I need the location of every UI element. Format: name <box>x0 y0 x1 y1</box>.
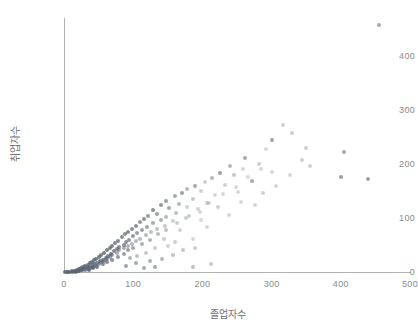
data-point <box>185 187 189 191</box>
data-point <box>290 131 294 135</box>
data-point <box>164 215 168 219</box>
data-point <box>162 237 166 241</box>
data-point <box>115 251 119 255</box>
data-point <box>308 164 312 168</box>
data-point <box>148 238 152 242</box>
data-point <box>270 170 274 174</box>
data-point <box>203 180 207 184</box>
data-point <box>216 205 220 209</box>
data-point <box>207 201 211 205</box>
data-point <box>131 234 135 238</box>
data-point <box>191 265 195 269</box>
data-point <box>209 262 213 266</box>
data-point <box>175 221 179 225</box>
data-point <box>131 246 135 250</box>
data-point <box>91 266 95 270</box>
data-point <box>164 228 168 232</box>
data-point <box>134 261 138 265</box>
data-point <box>193 184 197 188</box>
data-point <box>116 255 120 259</box>
data-point <box>146 214 150 218</box>
data-point <box>239 200 243 204</box>
data-point <box>366 177 370 181</box>
data-point <box>166 244 170 248</box>
data-point <box>377 23 381 27</box>
data-point <box>270 138 274 142</box>
data-point <box>288 173 292 177</box>
data-point <box>164 199 168 203</box>
data-point <box>178 228 182 232</box>
data-point <box>191 197 195 201</box>
data-point <box>151 208 155 212</box>
data-point <box>342 150 346 154</box>
data-point <box>300 158 304 162</box>
data-point <box>134 224 138 228</box>
data-point <box>122 246 126 250</box>
data-point <box>199 189 203 193</box>
data-point <box>159 203 163 207</box>
data-point <box>142 266 146 270</box>
data-point <box>213 193 217 197</box>
data-point <box>120 235 124 239</box>
data-point <box>259 167 263 171</box>
data-point <box>180 191 184 195</box>
data-point <box>227 213 231 217</box>
data-point <box>228 164 232 168</box>
data-point <box>155 227 159 231</box>
data-point <box>95 265 99 269</box>
data-point <box>243 156 247 160</box>
data-point <box>138 237 142 241</box>
data-point <box>187 214 191 218</box>
data-point <box>144 251 148 255</box>
data-point <box>135 254 139 258</box>
data-point <box>199 218 203 222</box>
data-point <box>174 211 178 215</box>
data-point <box>171 253 175 257</box>
data-point <box>135 231 139 235</box>
data-point <box>218 171 222 175</box>
data-point <box>156 232 160 236</box>
data-point <box>210 176 214 180</box>
data-point <box>122 252 126 256</box>
data-point <box>250 179 254 183</box>
data-point <box>274 184 278 188</box>
data-point <box>257 162 261 166</box>
data-point <box>144 233 148 237</box>
data-point <box>185 205 189 209</box>
data-point <box>128 256 132 260</box>
data-point <box>261 191 265 195</box>
data-point <box>160 257 164 261</box>
data-point <box>153 265 157 269</box>
data-point <box>159 218 163 222</box>
data-point <box>110 258 114 262</box>
data-point <box>264 147 268 151</box>
data-point <box>181 248 185 252</box>
data-point <box>304 146 308 150</box>
data-point <box>74 270 78 274</box>
data-point <box>177 202 181 206</box>
data-point <box>153 246 157 250</box>
data-point <box>145 225 149 229</box>
data-point <box>173 240 177 244</box>
data-point <box>253 203 257 207</box>
data-point <box>167 206 171 210</box>
data-point <box>246 175 250 179</box>
data-point <box>155 212 159 216</box>
data-point <box>193 246 197 250</box>
data-point <box>151 221 155 225</box>
data-point <box>232 173 236 177</box>
data-point <box>148 259 152 263</box>
data-point <box>339 175 343 179</box>
data-point <box>234 185 238 189</box>
data-point <box>173 194 177 198</box>
data-point <box>101 262 105 266</box>
data-point <box>126 248 130 252</box>
data-point <box>241 167 245 171</box>
data-point <box>149 230 153 234</box>
data-point <box>223 183 227 187</box>
data-point <box>142 217 146 221</box>
data-point <box>221 192 225 196</box>
data-point <box>130 227 134 231</box>
data-point <box>205 225 209 229</box>
